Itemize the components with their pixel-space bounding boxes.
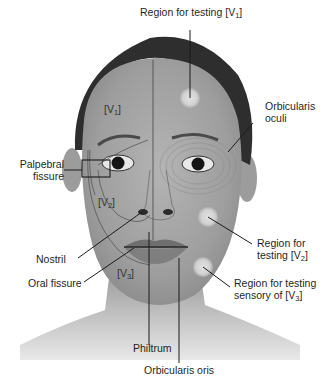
dermatome-label-v2: [V2] — [98, 196, 115, 210]
label-nostril: Nostril — [36, 253, 66, 265]
face — [82, 58, 242, 305]
label-philtrum: Philtrum — [133, 342, 172, 354]
dermatome-label-v3: [V3] — [117, 267, 134, 281]
label-region-testing-v2: Region fortesting [V2] — [257, 237, 308, 265]
label-palpebral-fissure: Palpebralfissure — [8, 158, 64, 182]
label-region-testing-v3: Region for testingsensory of [V3] — [234, 277, 316, 305]
label-orbicularis-oculi: Orbicularisoculi — [265, 100, 315, 124]
right-nostril — [163, 209, 173, 215]
face-illustration — [0, 0, 327, 385]
dermatome-label-v1: [V1] — [104, 103, 121, 117]
label-region-testing-v1: Region for testing [V1] — [140, 6, 242, 22]
label-orbicularis-oris: Orbicularis oris — [144, 364, 214, 376]
face-diagram: [V1] [V2] [V3] Region for testing [V1] O… — [0, 0, 327, 385]
label-oral-fissure: Oral fissure — [28, 277, 82, 289]
